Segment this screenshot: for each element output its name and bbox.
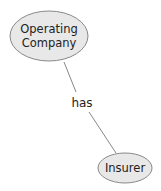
diagram-canvas: has Operating Company Insurer bbox=[0, 0, 161, 191]
node-insurer[interactable]: Insurer bbox=[98, 153, 152, 183]
edge-line-upper bbox=[64, 62, 76, 92]
edge-has[interactable]: has bbox=[64, 62, 116, 153]
node-label-line-2: Company bbox=[22, 36, 77, 50]
edge-label: has bbox=[71, 96, 92, 110]
node-label-line-1: Operating bbox=[20, 22, 78, 36]
node-operating-company[interactable]: Operating Company bbox=[10, 11, 88, 61]
edge-line-lower bbox=[89, 112, 116, 153]
node-label: Insurer bbox=[105, 161, 146, 175]
